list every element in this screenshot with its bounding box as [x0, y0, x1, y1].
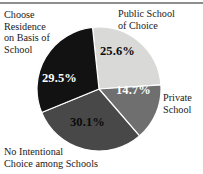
- slice-value-no-intentional-choice: 30.1%: [70, 116, 105, 129]
- slice-label-public-school-of-choice: Public School of Choice: [118, 8, 202, 31]
- slice-value-private-school: 14.7%: [116, 84, 151, 97]
- slice-value-choose-residence: 29.5%: [42, 72, 77, 85]
- slice-label-no-intentional-choice: No Intentional Choice among Schools: [4, 146, 154, 169]
- slice-value-public-school-of-choice: 25.6%: [100, 45, 135, 58]
- top-divider-rule: [0, 2, 203, 4]
- slice-label-choose-residence: Choose Residence on Basis of School: [4, 9, 76, 55]
- pie-chart-figure: 25.6% 14.7% 30.1% 29.5% Choose Residence…: [0, 0, 203, 174]
- slice-label-private-school: Private School: [163, 92, 203, 115]
- pie-slice-public-school-of-choice[interactable]: [93, 27, 161, 89]
